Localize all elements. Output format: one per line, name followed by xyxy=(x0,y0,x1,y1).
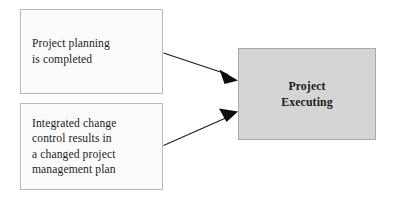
connector-planning-to-executing xyxy=(164,53,239,84)
diagram-canvas: Project planning is completed Integrated… xyxy=(0,0,393,199)
arrowhead-icon xyxy=(220,70,239,85)
node-line: a changed project xyxy=(32,147,162,163)
node-project-executing: Project Executing xyxy=(238,48,376,140)
node-line: Project xyxy=(288,78,325,95)
node-line: Project planning xyxy=(32,36,162,52)
node-line: Executing xyxy=(281,94,332,111)
connector-change-control-to-executing xyxy=(164,109,239,146)
node-line: management plan xyxy=(32,162,162,178)
node-integrated-change-control: Integrated change control results in a c… xyxy=(20,103,163,190)
node-line: is completed xyxy=(32,52,162,68)
connector-line xyxy=(164,53,229,75)
node-line: Integrated change xyxy=(32,116,162,132)
node-project-planning: Project planning is completed xyxy=(20,9,163,94)
connector-line xyxy=(164,117,229,146)
arrowhead-icon xyxy=(219,109,238,123)
node-line: control results in xyxy=(32,131,162,147)
